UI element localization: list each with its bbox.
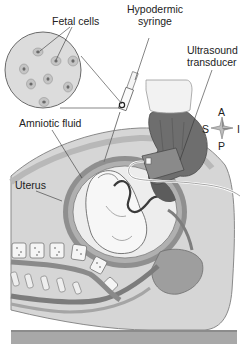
label-fetal-cells: Fetal cells (52, 15, 99, 27)
label-hypodermic-syringe-line1: Hypodermic (126, 3, 184, 15)
label-amniotic-fluid: Amniotic fluid (19, 117, 81, 129)
magnified-cells-view (5, 32, 122, 108)
label-ultrasound-line1: Ultrasound (187, 44, 238, 56)
compass-label-inferior: I (237, 123, 240, 135)
amniocentesis-diagram: Fetal cells Hypodermic syringe Ultrasoun… (0, 0, 249, 348)
compass-rose (211, 117, 233, 139)
compass-label-posterior: P (218, 140, 225, 152)
label-hypodermic-syringe: Hypodermic syringe (126, 3, 184, 27)
label-ultrasound-line2: transducer (187, 56, 238, 68)
label-hypodermic-syringe-line2: syringe (126, 15, 184, 27)
compass-label-superior: S (202, 123, 209, 135)
exam-table (11, 330, 237, 344)
label-uterus: Uterus (15, 179, 46, 191)
label-ultrasound-transducer: Ultrasound transducer (187, 44, 238, 68)
sleeve-cuff (146, 80, 192, 113)
compass-label-anterior: A (218, 106, 225, 118)
